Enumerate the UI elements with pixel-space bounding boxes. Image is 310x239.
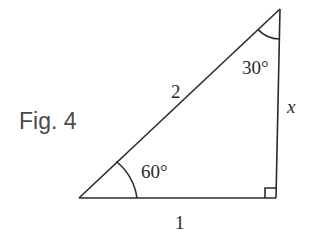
hypotenuse-line bbox=[79, 9, 280, 198]
hypotenuse-label: 2 bbox=[171, 81, 181, 102]
base-label: 1 bbox=[175, 212, 185, 233]
angle-arc-60 bbox=[116, 162, 137, 199]
vertical-side-line bbox=[276, 9, 280, 198]
right-angle-marker bbox=[265, 188, 276, 198]
caption-label: Fig. 4 bbox=[19, 108, 77, 134]
angle-label-30: 30° bbox=[242, 57, 269, 78]
angle-arc-30 bbox=[258, 30, 279, 39]
angle-label-60: 60° bbox=[141, 161, 168, 182]
triangle-figure: Fig. 4 2 1 x 60° 30° bbox=[0, 0, 310, 239]
vertical-side-label: x bbox=[286, 96, 296, 117]
